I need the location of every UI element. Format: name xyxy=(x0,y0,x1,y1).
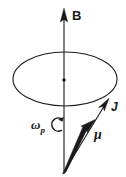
precession-diagram: B J μ ωp xyxy=(0,0,126,177)
magnetic-moment-label: μ xyxy=(94,128,102,142)
angular-momentum-label: J xyxy=(111,101,118,113)
diagram-canvas xyxy=(0,0,126,177)
precession-frequency-label: ωp xyxy=(31,118,45,135)
omega-subscript: p xyxy=(40,125,45,135)
omega-symbol: ω xyxy=(31,117,40,132)
angular-momentum-arrowhead xyxy=(99,98,110,111)
ellipse-center-dot xyxy=(62,78,65,81)
magnetic-moment-shaft xyxy=(63,125,88,174)
magnetic-field-label: B xyxy=(72,9,81,22)
